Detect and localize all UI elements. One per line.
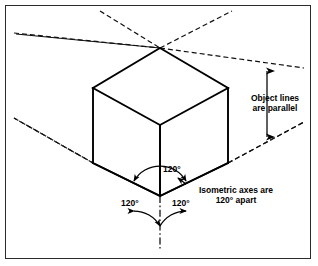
axis-left-extension xyxy=(14,118,93,163)
object-lines-parallel-note: Object linesare parallel xyxy=(238,94,312,113)
diagram-page: Object linesare parallel Isometric axes … xyxy=(0,0,318,266)
cube-object-lines xyxy=(93,48,228,196)
angle-arc-bottom-right xyxy=(160,211,186,226)
dashed-steep-left-upper xyxy=(100,11,160,48)
axes-note-line-1: Isometric axes are xyxy=(199,185,273,195)
dashed-left-top-ext xyxy=(14,62,93,88)
dashed-steep-right-upper xyxy=(160,11,232,48)
cube-top-face xyxy=(93,48,228,125)
angle-arc-bottom-left xyxy=(134,211,160,226)
dashed-right-top-ext xyxy=(228,68,304,88)
isometric-axes-note: Isometric axes are120° apart xyxy=(182,186,290,205)
angle-label-left: 120° xyxy=(121,199,139,209)
dashed-apex-to-right xyxy=(160,48,304,68)
dashed-ul-to-apex xyxy=(14,33,160,48)
parallel-note-line-1: Object lines xyxy=(251,93,299,103)
isometric-diagram-canvas xyxy=(0,0,318,266)
dashed-lower-left xyxy=(14,118,93,163)
angle-label-right: 120° xyxy=(172,199,190,209)
axis-right-extension xyxy=(228,122,304,163)
angle-label-top: 120° xyxy=(163,165,181,175)
axes-note-line-2: 120° apart xyxy=(216,195,257,205)
parallel-note-line-2: are parallel xyxy=(253,103,298,113)
angle-arc-top-left xyxy=(134,166,160,181)
